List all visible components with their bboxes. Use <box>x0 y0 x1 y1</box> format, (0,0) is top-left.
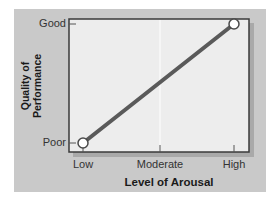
y-tick-label-poor: Poor <box>26 136 66 148</box>
marker-high <box>229 19 239 29</box>
x-tick-label-moderate: Moderate <box>125 158 195 170</box>
y-axis-label-line1: Quality of <box>19 41 31 131</box>
x-tick-label-low: Low <box>48 158 118 170</box>
y-axis-label: Quality of Performance <box>8 52 68 122</box>
marker-low <box>78 138 88 148</box>
x-axis-label: Level of Arousal <box>84 176 254 188</box>
y-tick-label-good: Good <box>26 17 66 29</box>
y-axis-label-line2: Performance <box>31 41 43 131</box>
x-tick-label-high: High <box>199 158 269 170</box>
